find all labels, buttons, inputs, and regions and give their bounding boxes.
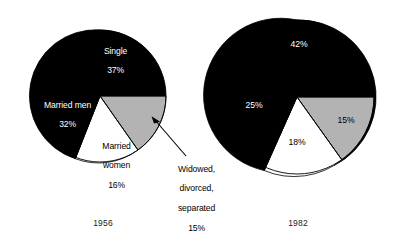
caption-year-1956: 1956 xyxy=(78,218,128,228)
caption-year-1982: 1982 xyxy=(273,218,323,228)
label-1956-married-women-text1: Married xyxy=(102,141,130,151)
label-1956-widowed-text3: separated xyxy=(178,203,215,213)
label-1982-married-men-value: 25% xyxy=(238,101,270,111)
label-1956-married-women: Married women 16% xyxy=(86,132,138,201)
slice-1982-single-fill xyxy=(297,20,374,97)
figure-canvas: Single 37% Married men 32% Married women… xyxy=(0,0,394,243)
label-1956-single: Single 37% xyxy=(85,37,137,86)
label-1956-widowed-value: 15% xyxy=(188,223,205,233)
label-1956-married-women-value: 16% xyxy=(108,180,125,190)
label-1956-widowed-text1: Widowed, xyxy=(178,164,215,174)
label-1956-married-men-value: 32% xyxy=(59,119,76,129)
label-1956-married-women-text2: women xyxy=(103,160,130,170)
label-1956-single-text: Single xyxy=(104,46,127,56)
label-1956-married-men-text: Married men xyxy=(44,100,91,110)
label-1982-widowed-value: 15% xyxy=(330,116,362,126)
label-1956-widowed: Widowed, divorced, separated 15% xyxy=(152,155,232,243)
label-1982-single-value: 42% xyxy=(283,40,315,50)
label-1982-married-women-value: 18% xyxy=(281,138,313,148)
label-1956-widowed-text2: divorced, xyxy=(180,183,214,193)
label-1956-single-value: 37% xyxy=(107,65,124,75)
widowed-callout-arrow xyxy=(152,116,187,156)
